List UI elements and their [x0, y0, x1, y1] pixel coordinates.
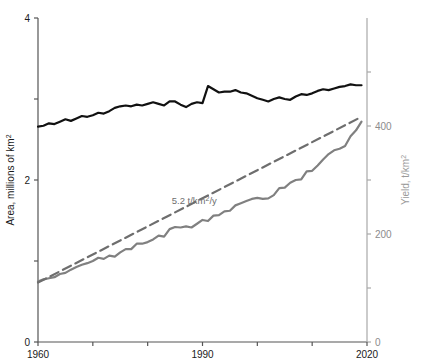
x-axis-ticklabel: 1990 — [191, 349, 214, 360]
left-axis-spine — [38, 18, 367, 342]
left-axis-ticklabel: 4 — [24, 13, 30, 24]
chart-canvas: 02402004001960199020205.2 t/km2/yArea, m… — [0, 0, 421, 364]
left-axis-ticklabel: 0 — [24, 337, 30, 348]
right-axis-ticklabel: 400 — [375, 121, 392, 132]
right-axis-ticklabel: 200 — [375, 229, 392, 240]
svg-text:Yield, t/km2: Yield, t/km2 — [400, 155, 411, 205]
left-axis-title: Area, millions of km2 — [5, 134, 16, 225]
x-axis-ticklabel: 1960 — [27, 349, 50, 360]
svg-text:Area, millions of km2: Area, millions of km2 — [5, 134, 16, 225]
chart-figure: 02402004001960199020205.2 t/km2/yArea, m… — [0, 0, 421, 364]
right-axis-title: Yield, t/km2 — [400, 155, 411, 205]
x-axis-ticklabel: 2020 — [356, 349, 379, 360]
right-axis-ticklabel: 0 — [375, 337, 381, 348]
left-axis-ticklabel: 2 — [24, 175, 30, 186]
trend-slope-label: 5.2 t/km2/y — [172, 195, 217, 206]
series-line-area — [38, 84, 362, 126]
